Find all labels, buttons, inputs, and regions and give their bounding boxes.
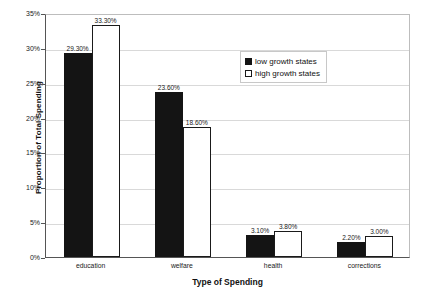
bar-value-label: 3.00% [359,228,399,235]
x-axis-title: Type of Spending [45,277,410,287]
y-axis-tick-label: 30% [14,45,40,53]
bar-education-low-growth [64,53,92,257]
y-axis-tick-label: 20% [14,115,40,123]
bar-value-label: 23.60% [149,84,189,91]
y-axis-tick-label: 15% [14,149,40,157]
bar-corrections-high-growth [365,236,393,257]
legend-item-low-growth-states: low growth states [245,55,320,67]
x-axis-category-label: welfare [142,262,222,269]
bar-welfare-high-growth [183,127,211,257]
y-axis-tick-label: 0% [14,254,40,262]
y-axis-tick-label: 5% [14,219,40,227]
bar-value-label: 33.30% [86,17,126,24]
plot-area: 29.30%33.30%23.60%18.60%3.10%3.80%2.20%3… [45,14,410,258]
bar-health-low-growth [246,235,274,257]
legend-label-high: high growth states [255,69,320,78]
bar-education-high-growth [92,25,120,257]
legend: low growth states high growth states [240,51,327,83]
legend-swatch-icon-low [245,58,252,65]
y-axis-tick-label: 35% [14,10,40,18]
bar-value-label: 3.80% [268,223,308,230]
y-axis-title: Proportion of Total Spending [34,38,43,238]
y-axis-tick-mark [41,258,45,259]
x-axis-category-label: corrections [324,262,404,269]
legend-swatch-icon-high [245,70,252,77]
y-axis-tick-label: 25% [14,80,40,88]
x-axis-category-label: health [233,262,313,269]
y-axis-tick-label: 10% [14,184,40,192]
legend-item-high-growth-states: high growth states [245,67,320,79]
bar-corrections-low-growth [337,242,365,257]
legend-label-low: low growth states [255,57,317,66]
bar-value-label: 18.60% [177,119,217,126]
bar-welfare-low-growth [155,92,183,257]
bar-health-high-growth [274,231,302,257]
x-axis-category-label: education [51,262,131,269]
bar-chart: Proportion of Total Spending 0%5%10%15%2… [0,0,428,301]
